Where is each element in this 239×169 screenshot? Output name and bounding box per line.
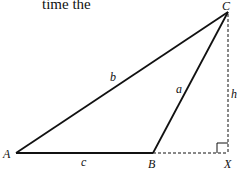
side-label-c: c [81,155,87,169]
vertex-label-c: C [222,0,231,13]
right-angle-marker [217,143,228,153]
side-label-b: b [110,70,116,84]
vertex-label-b: B [148,157,156,169]
triangle-figure: time the A B C X a b c h [0,0,239,169]
vertex-label-x: X [223,157,232,169]
side-b [16,12,228,153]
vertex-label-a: A [2,147,11,161]
triangle-diagram: A B C X a b c h [0,0,239,169]
side-a [153,12,228,153]
side-label-a: a [176,82,182,96]
side-label-h: h [231,87,237,101]
